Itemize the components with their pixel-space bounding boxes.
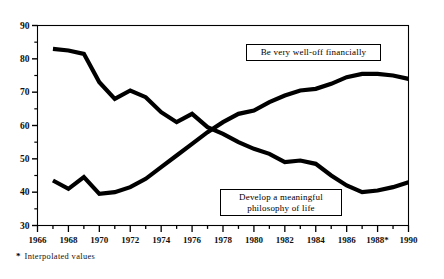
- y-tick-label-90: 90: [20, 21, 30, 31]
- x-tick-label-1986: 1986: [338, 235, 357, 245]
- x-tick-label-1974: 1974: [152, 235, 171, 245]
- callout-be-very-well-off-financially: Be very well-off financially: [246, 44, 381, 61]
- y-tick-label-80: 80: [20, 54, 30, 64]
- callout-philosophy-text: Develop a meaningful philosophy of life: [234, 192, 328, 213]
- x-tick-label-1966: 1966: [29, 235, 48, 245]
- y-tick-label-70: 70: [20, 87, 30, 97]
- x-tick-label-1990: 1990: [400, 235, 419, 245]
- callout-financial-text: Be very well-off financially: [256, 47, 372, 58]
- data-series: [53, 49, 409, 194]
- y-tick-label-50: 50: [20, 154, 30, 164]
- x-tick-label-1970: 1970: [90, 235, 109, 245]
- x-tick-label-1982: 1982: [276, 235, 295, 245]
- x-tick-label-1978: 1978: [214, 235, 233, 245]
- footnote: * Interpolated values: [16, 252, 95, 261]
- x-tick-label-1984: 1984: [307, 235, 326, 245]
- chart-canvas: 3040506070809019661968197019721974197619…: [0, 0, 444, 279]
- x-tick-label-1976: 1976: [183, 235, 202, 245]
- x-tick-label-1988: 1988*: [366, 235, 389, 245]
- callout-develop-meaningful-philosophy: Develop a meaningful philosophy of life: [220, 189, 342, 216]
- x-tick-label-1980: 1980: [245, 235, 264, 245]
- y-tick-label-40: 40: [20, 187, 30, 197]
- y-tick-label-60: 60: [20, 121, 30, 131]
- chart-figure: 3040506070809019661968197019721974197619…: [0, 0, 444, 279]
- x-tick-label-1972: 1972: [121, 235, 140, 245]
- series-line-philosophy: [53, 49, 409, 192]
- y-tick-label-30: 30: [20, 221, 30, 231]
- x-tick-label-1968: 1968: [59, 235, 78, 245]
- footnote-asterisk: *: [16, 252, 21, 261]
- footnote-label: Interpolated values: [25, 252, 96, 261]
